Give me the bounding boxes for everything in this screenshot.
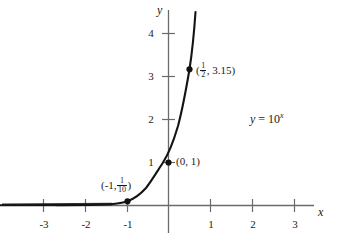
exponential-curve — [0, 12, 196, 205]
paren-open: ( — [196, 64, 200, 76]
equation-label: y=10x — [250, 113, 284, 125]
x-tick-label-3: 3 — [285, 219, 305, 230]
x-tick-label-neg3: -3 — [34, 219, 54, 230]
fraction-one-tenth: 110 — [117, 177, 127, 195]
x-tick-label-2: 2 — [243, 219, 263, 230]
paren-close: ) — [231, 64, 235, 76]
label-y-value: 3.15 — [212, 64, 231, 76]
exponential-function-figure: y x 1 2 3 4 -3 -2 -1 1 2 3 (12, 3.15) (0… — [0, 0, 337, 242]
marker-origin-one — [165, 159, 171, 165]
equation-base: 10 — [268, 112, 280, 126]
y-tick-label-4: 4 — [144, 28, 158, 39]
x-tick-label-neg1: -1 — [118, 219, 138, 230]
fraction-one-half: 12 — [200, 62, 206, 80]
fraction-denominator: 2 — [200, 70, 206, 79]
x-tick-label-neg2: -2 — [76, 219, 96, 230]
paren-close: ) — [128, 179, 132, 191]
fraction-denominator: 10 — [117, 185, 127, 194]
point-label-origin-one: (0, 1) — [176, 156, 200, 167]
y-tick-label-2: 2 — [144, 114, 158, 125]
graph-canvas — [0, 0, 337, 242]
fraction-numerator: 1 — [117, 177, 127, 185]
asymptote-tail — [2, 204, 112, 205]
equation-exponent: x — [280, 111, 284, 120]
x-tick-label-1: 1 — [201, 219, 221, 230]
x-axis-label: x — [318, 206, 323, 218]
label-x-value: -1 — [105, 179, 114, 191]
y-tick-label-3: 3 — [144, 71, 158, 82]
y-axis-label: y — [157, 4, 162, 16]
y-tick-label-1: 1 — [144, 157, 158, 168]
marker-half-3-15 — [186, 66, 192, 72]
fraction-numerator: 1 — [200, 62, 206, 70]
point-label-neg-one-tenth: (-1,110) — [101, 177, 131, 195]
marker-neg-one-tenth — [124, 198, 130, 204]
equation-operator: = — [255, 112, 268, 126]
point-label-half-3-15: (12, 3.15) — [196, 62, 235, 80]
